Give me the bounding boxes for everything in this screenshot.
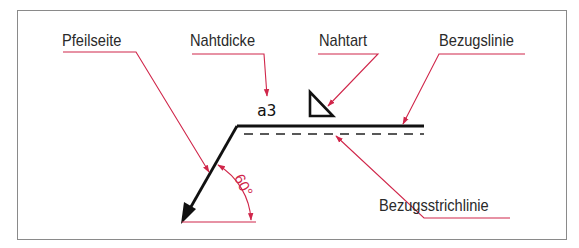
- label-pfeilseite: Pfeilseite: [62, 31, 121, 51]
- label-bezugslinie: Bezugslinie: [439, 31, 514, 51]
- leader-pfeilseite: [63, 52, 209, 172]
- arrow-head-icon: [181, 202, 196, 224]
- leader-bezugslinie: [403, 54, 525, 124]
- weld-dimension: a3: [257, 101, 276, 120]
- leader-nahtart: [318, 54, 378, 106]
- label-nahtart: Nahtart: [319, 31, 367, 51]
- label-nahtdicke: Nahtdicke: [190, 31, 255, 51]
- arrow-line: [188, 126, 237, 212]
- leader-nahtdicke: [192, 54, 267, 96]
- label-bezugsstrichlinie: Bezugsstrichlinie: [379, 196, 489, 216]
